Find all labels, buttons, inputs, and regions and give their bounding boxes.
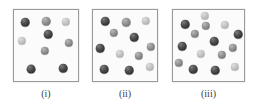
particle-dark [210,37,219,46]
particle-medium [147,43,155,51]
particle-medium [191,30,199,38]
particle-light [146,63,154,71]
particle-light [197,50,205,58]
particle-dark [181,20,190,29]
particle-medium [122,18,131,27]
particle-dark [21,18,30,27]
particle-medium [218,51,226,59]
particle-medium [135,52,143,60]
particle-light [201,12,209,20]
panel-label-i: (i) [13,88,79,100]
particle-medium [202,22,210,30]
particle-dark [101,17,110,26]
particle-medium [110,29,118,37]
particle-dark [100,65,109,74]
particle-box-ii-contents [93,10,157,81]
particle-box-ii [92,9,158,82]
particle-medium [41,47,49,55]
particle-dark [130,33,139,42]
particle-light [116,50,124,58]
particle-medium [42,17,51,26]
particle-light [62,18,70,26]
particle-box-iii-contents [173,10,244,81]
particle-dark [189,65,198,74]
particle-dark [178,42,187,51]
particle-dark [211,66,220,75]
particle-light [142,17,150,25]
particle-dark [27,65,36,74]
particle-light [221,21,229,29]
particle-box-i [13,9,79,82]
particle-medium [229,44,237,52]
particle-medium [175,59,183,67]
particle-dark [125,66,134,75]
particle-box-i-contents [14,10,78,81]
panel-label-iii: (iii) [172,88,245,100]
particle-dark [59,64,68,73]
particle-dark [96,44,105,53]
particle-light [18,37,26,45]
particle-box-iii [172,9,245,82]
panel-label-ii: (ii) [92,88,158,100]
particle-dark [234,30,243,39]
particle-medium [65,39,73,47]
particle-dark [44,30,53,39]
particle-light [231,63,239,71]
particle-concentration-figure: (i)(ii)(iii) [0,0,257,110]
